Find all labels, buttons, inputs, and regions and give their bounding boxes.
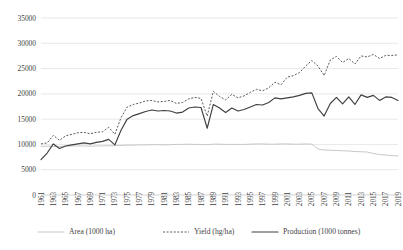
x-axis-tick-label: 1977 [136,191,144,206]
x-axis-tick-label: 1969 [87,191,95,206]
legend-label: Production (1000 tonnes) [283,227,361,236]
x-axis-tick-label: 1989 [210,191,218,206]
series-line-area [41,144,398,156]
chart-legend: Area (1000 ha)Yield (hg/ha)Production (1… [38,227,361,236]
x-axis-tick-label: 2011 [345,192,353,207]
x-axis-tick-label: 2001 [284,191,292,206]
line-chart-svg: 05000100001500020000250003000035000 1961… [0,0,403,250]
chart-container: 05000100001500020000250003000035000 1961… [0,0,403,250]
x-axis-tick-label: 1975 [124,191,132,206]
y-axis-tick-label: 20000 [18,89,37,98]
y-axis-tick-label: 25000 [18,64,37,73]
data-series-group [41,54,398,159]
series-line-yield [41,54,398,144]
series-line-production [41,93,398,160]
x-axis-tick-label: 2003 [296,191,304,206]
x-axis-tick-label: 1961 [38,191,46,206]
y-axis-tick-label: 30000 [18,39,37,48]
x-axis-tick-label: 1995 [247,191,255,206]
x-axis-tick-label: 1983 [173,191,181,206]
legend-label: Area (1000 ha) [69,227,115,236]
x-axis-tick-label: 2013 [358,191,366,206]
x-axis-tick-label: 1997 [259,191,267,206]
x-axis-tick-label: 1985 [185,191,193,206]
x-axis-tick-label: 1973 [111,191,119,206]
x-axis-tick-label: 2009 [333,191,341,206]
x-axis-tick-label: 1987 [198,191,206,206]
x-axis-tick-label: 1993 [235,191,243,206]
x-axis-tick-label: 1999 [272,191,280,206]
x-axis-tick-labels: 1961196319651967196919711973197519771979… [38,191,403,206]
y-axis-tick-label: 10000 [18,140,37,149]
x-axis-tick-label: 2007 [321,191,329,206]
gridlines-group [41,18,398,195]
y-axis-tick-label: 0 [32,191,36,200]
x-axis-tick-label: 1991 [222,191,230,206]
x-axis-tick-label: 1981 [161,191,169,206]
x-axis-tick-label: 1967 [75,191,83,206]
x-axis-tick-label: 2019 [395,191,403,206]
chart-plot-area: 05000100001500020000250003000035000 1961… [0,0,403,250]
x-axis-tick-label: 2017 [382,191,390,206]
x-axis-tick-label: 2015 [370,191,378,206]
x-axis-tick-label: 2005 [308,191,316,206]
x-axis-tick-label: 1963 [50,191,58,206]
x-axis-tick-label: 1965 [62,191,70,206]
y-axis-tick-labels: 05000100001500020000250003000035000 [18,14,37,200]
x-axis-tick-label: 1979 [148,191,156,206]
y-axis-tick-label: 35000 [18,14,37,23]
legend-label: Yield (hg/ha) [194,227,235,236]
x-axis-tick-label: 1971 [99,191,107,206]
y-axis-tick-label: 15000 [18,115,37,124]
y-axis-tick-label: 5000 [21,165,36,174]
